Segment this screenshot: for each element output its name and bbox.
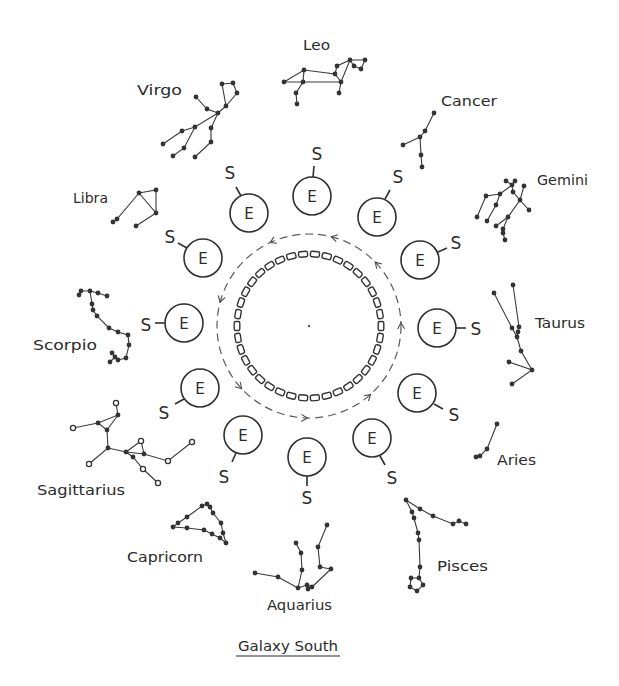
star-point: [182, 146, 187, 151]
star-point: [216, 111, 221, 116]
ship-left-upper: E S: [165, 227, 222, 277]
star-point: [474, 455, 479, 460]
ships-ring: E S E S E S E S E S: [141, 144, 482, 508]
star-point: [401, 143, 406, 148]
star-point: [88, 289, 93, 294]
ship-right-upper: E S: [401, 233, 461, 279]
star-point: [180, 129, 185, 134]
constellation-line: [136, 213, 156, 226]
label-sagittarius: Sagittarius: [37, 482, 125, 498]
constellation-line: [494, 293, 517, 337]
star-point: [224, 104, 229, 109]
star-point: [510, 382, 515, 387]
star-point: [113, 355, 118, 360]
star-point: [96, 291, 101, 296]
tether-line: [178, 243, 187, 248]
star-point: [506, 215, 511, 220]
ring-block: [247, 277, 257, 288]
star-point: [107, 326, 112, 331]
ship-body-label: E: [367, 430, 376, 448]
star-point: [352, 64, 357, 69]
ring-block: [377, 333, 384, 343]
ring-block: [286, 392, 296, 400]
star-point: [515, 335, 520, 340]
star-point: [295, 102, 300, 107]
ring-block: [361, 277, 371, 288]
star-point: [498, 192, 503, 197]
constellation-line: [296, 70, 304, 104]
star-point: [339, 80, 344, 85]
star-point: [419, 153, 424, 158]
ring-block: [286, 252, 296, 260]
constellation-cancer: [401, 111, 437, 170]
star-point: [513, 179, 518, 184]
ring-block: [373, 297, 381, 307]
constellation-taurus: [492, 283, 535, 387]
star-point: [412, 516, 417, 521]
ship-body-label: E: [432, 320, 441, 338]
star-point: [176, 521, 181, 526]
star-point: [231, 81, 236, 86]
star-point: [137, 191, 142, 196]
label-scorpio: Scorpio: [33, 337, 97, 353]
star-point: [90, 302, 95, 307]
star-point: [134, 224, 139, 229]
star-point: [193, 125, 198, 130]
star-point: [527, 208, 532, 213]
hollow-star-point: [155, 480, 160, 485]
star-point: [335, 64, 340, 69]
constellation-line: [173, 527, 226, 543]
star-point: [516, 330, 521, 335]
star-point: [235, 91, 240, 96]
star-point: [154, 188, 159, 193]
ring-block: [255, 374, 265, 384]
ship-top: E S: [293, 144, 331, 215]
star-point: [511, 190, 516, 195]
star-point: [409, 576, 414, 581]
tether-line: [313, 166, 314, 177]
star-point: [124, 356, 129, 361]
tether-line: [438, 248, 447, 252]
star-point: [105, 428, 110, 433]
ship-tail-label: S: [219, 467, 230, 487]
star-point: [418, 565, 423, 570]
star-point: [318, 565, 323, 570]
star-point: [417, 538, 422, 543]
label-aries: Aries: [497, 452, 536, 468]
ring-block: [234, 322, 240, 331]
constellation-line: [403, 113, 434, 145]
hollow-star-point: [165, 458, 170, 463]
ship-left-lower: E S: [159, 369, 219, 423]
ring-block: [237, 344, 245, 354]
star-point: [485, 219, 490, 224]
ring-block: [237, 297, 245, 307]
ship-tail-label: S: [225, 163, 236, 183]
label-gemini: Gemini: [537, 172, 588, 188]
constellation-pisces: [404, 498, 469, 594]
ring-block: [275, 256, 285, 265]
star-point: [115, 217, 120, 222]
ring-block: [376, 309, 383, 319]
tether-line: [380, 456, 385, 465]
ring-block: [255, 268, 265, 278]
diagram-caption: Galaxy South: [236, 638, 340, 656]
star-point: [510, 183, 515, 188]
ship-bottom-right: E S: [353, 419, 397, 488]
star-point: [193, 155, 198, 160]
star-point: [131, 455, 136, 460]
star-point: [211, 511, 216, 516]
star-point: [316, 545, 321, 550]
constellation-line: [477, 185, 512, 217]
orbit-arrow-icon: [270, 237, 277, 243]
ring-block: [333, 388, 343, 397]
ship-tail-label: S: [312, 144, 323, 164]
ring-block: [234, 333, 241, 343]
star-point: [185, 526, 190, 531]
hollow-star-point: [140, 466, 145, 471]
star-point: [418, 507, 423, 512]
star-point: [205, 107, 210, 112]
star-point: [210, 532, 215, 537]
star-point: [142, 452, 147, 457]
tether-line: [385, 190, 390, 199]
constellation-sagittarius: [70, 400, 194, 485]
